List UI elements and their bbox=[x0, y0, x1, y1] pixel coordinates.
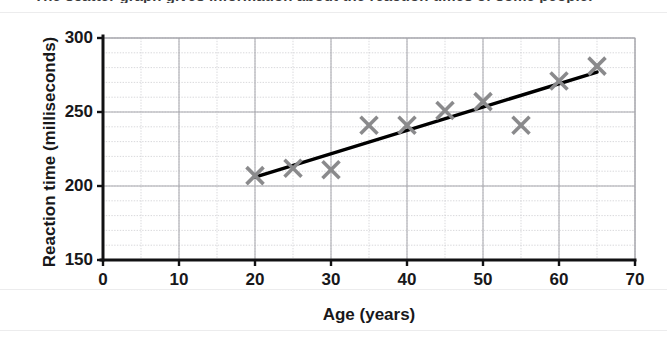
x-tick-label-20: 20 bbox=[233, 270, 277, 290]
x-tick-label-50: 50 bbox=[461, 270, 505, 290]
x-axis-title: Age (years) bbox=[103, 305, 635, 325]
scatter-graph-figure: 010203040506070 150200250300 Reaction ti… bbox=[0, 0, 667, 340]
y-axis-title: Reaction time (milliseconds) bbox=[40, 32, 60, 272]
data-point-markers bbox=[247, 58, 606, 185]
x-tick-label-70: 70 bbox=[613, 270, 657, 290]
x-tick-label-0: 0 bbox=[81, 270, 125, 290]
axis-tick-marks bbox=[97, 38, 635, 266]
minor-gridlines bbox=[103, 38, 635, 260]
x-tick-label-60: 60 bbox=[537, 270, 581, 290]
x-tick-label-30: 30 bbox=[309, 270, 353, 290]
x-tick-label-10: 10 bbox=[157, 270, 201, 290]
axis-lines bbox=[101, 36, 635, 260]
x-tick-label-40: 40 bbox=[385, 270, 429, 290]
line-of-best-fit bbox=[255, 72, 597, 177]
